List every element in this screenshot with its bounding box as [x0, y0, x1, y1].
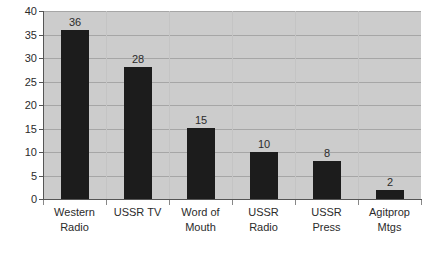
bar[interactable] — [187, 128, 215, 199]
y-axis-tick-label: 10 — [1, 147, 37, 158]
y-axis-tick-label: 35 — [1, 30, 37, 41]
y-axis-tick-label: 40 — [1, 6, 37, 17]
y-axis-tick — [39, 152, 43, 153]
y-axis-tick — [39, 58, 43, 59]
category-label: USSRRadio — [232, 205, 295, 235]
bar[interactable] — [313, 161, 341, 199]
bar-chart: 3628151082 0510152025303540 WesternRadio… — [0, 0, 443, 254]
y-axis-tick-label: 25 — [1, 77, 37, 88]
category-label-line1: Western — [54, 206, 95, 218]
bar-value-label: 10 — [244, 138, 284, 150]
y-axis-labels: 0510152025303540 — [0, 11, 37, 199]
bar-value-label: 2 — [370, 176, 410, 188]
category-label-line1: USSR — [248, 206, 279, 218]
y-axis-tick-label: 20 — [1, 100, 37, 111]
bar[interactable] — [376, 190, 404, 199]
category-separator — [358, 11, 359, 199]
category-label-line1: USSR TV — [114, 206, 161, 218]
category-separator — [295, 11, 296, 199]
bar-value-label: 36 — [55, 16, 95, 28]
category-label-line2: Press — [295, 220, 358, 235]
category-label-line1: USSR — [311, 206, 342, 218]
y-axis-tick-label: 5 — [1, 171, 37, 182]
y-axis-tick-label: 15 — [1, 124, 37, 135]
category-separator — [232, 11, 233, 199]
category-label: Word ofMouth — [169, 205, 232, 235]
category-label-line2: Radio — [232, 220, 295, 235]
y-axis-line — [43, 11, 44, 200]
category-label-line2: Mtgs — [358, 220, 421, 235]
category-label-line1: Agitprop — [369, 206, 410, 218]
bar-value-label: 8 — [307, 147, 347, 159]
category-label: USSR TV — [106, 205, 169, 220]
y-axis-tick — [39, 129, 43, 130]
category-label: AgitpropMtgs — [358, 205, 421, 235]
bar[interactable] — [250, 152, 278, 199]
category-label: USSRPress — [295, 205, 358, 235]
category-label-line2: Mouth — [169, 220, 232, 235]
y-axis-tick-label: 30 — [1, 53, 37, 64]
y-axis-tick — [39, 105, 43, 106]
category-label: WesternRadio — [43, 205, 106, 235]
y-axis-tick-label: 0 — [1, 194, 37, 205]
y-axis-tick — [39, 176, 43, 177]
plot-area: 3628151082 — [43, 11, 421, 199]
category-label-line1: Word of — [181, 206, 219, 218]
x-axis-category-labels: WesternRadioUSSR TVWord ofMouthUSSRRadio… — [43, 205, 421, 251]
bar-value-label: 15 — [181, 114, 221, 126]
bar-value-label: 28 — [118, 53, 158, 65]
y-axis-tick — [39, 35, 43, 36]
category-label-line2: Radio — [43, 220, 106, 235]
x-axis-tick — [421, 200, 422, 205]
bar[interactable] — [61, 30, 89, 199]
category-separator — [169, 11, 170, 199]
y-axis-tick — [39, 82, 43, 83]
y-axis-tick — [39, 11, 43, 12]
bar[interactable] — [124, 67, 152, 199]
category-separator — [106, 11, 107, 199]
